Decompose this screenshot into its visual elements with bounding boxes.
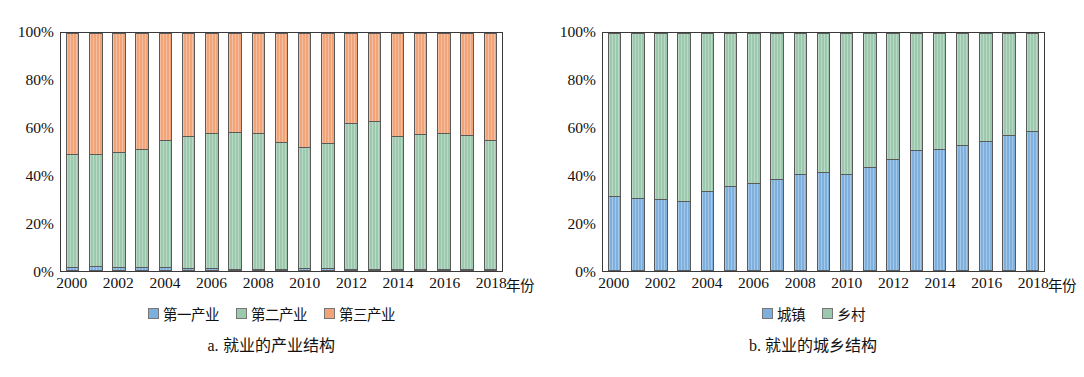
stacked-bar[interactable] <box>321 33 334 271</box>
stacked-bar[interactable] <box>460 33 473 271</box>
bar-segment-第三产业[interactable] <box>252 33 265 133</box>
bar-segment-第三产业[interactable] <box>228 33 241 132</box>
stacked-bar[interactable] <box>228 33 241 271</box>
bar-segment-第二产业[interactable] <box>112 152 125 267</box>
bar-segment-城镇[interactable] <box>956 145 969 271</box>
stacked-bar[interactable] <box>631 33 644 271</box>
bar-segment-乡村[interactable] <box>724 33 737 186</box>
bar-slot[interactable] <box>61 33 84 271</box>
stacked-bar[interactable] <box>484 33 497 271</box>
bar-segment-乡村[interactable] <box>608 33 621 196</box>
bar-segment-第二产业[interactable] <box>460 135 473 269</box>
bar-segment-乡村[interactable] <box>794 33 807 174</box>
bar-segment-第三产业[interactable] <box>321 33 334 143</box>
bar-slot[interactable] <box>1021 33 1044 271</box>
bar-slot[interactable] <box>765 33 788 271</box>
stacked-bar[interactable] <box>979 33 992 271</box>
legend-item-第二产业[interactable]: 第二产业 <box>236 303 307 324</box>
stacked-bar[interactable] <box>252 33 265 271</box>
stacked-bar[interactable] <box>1002 33 1015 271</box>
bar-segment-第三产业[interactable] <box>298 33 311 147</box>
bar-slot[interactable] <box>603 33 626 271</box>
stacked-bar[interactable] <box>66 33 79 271</box>
bar-segment-第三产业[interactable] <box>414 33 427 134</box>
bar-segment-第一产业[interactable] <box>321 268 334 271</box>
stacked-bar[interactable] <box>414 33 427 271</box>
stacked-bar[interactable] <box>159 33 172 271</box>
bar-segment-第二产业[interactable] <box>391 136 404 269</box>
bar-slot[interactable] <box>974 33 997 271</box>
bar-slot[interactable] <box>812 33 835 271</box>
bar-slot[interactable] <box>363 33 386 271</box>
bar-slot[interactable] <box>673 33 696 271</box>
bar-segment-第二产业[interactable] <box>275 142 288 269</box>
bar-slot[interactable] <box>928 33 951 271</box>
stacked-bar[interactable] <box>794 33 807 271</box>
bar-segment-第二产业[interactable] <box>205 133 218 268</box>
bar-segment-城镇[interactable] <box>979 141 992 271</box>
bar-slot[interactable] <box>270 33 293 271</box>
bar-segment-第二产业[interactable] <box>344 123 357 269</box>
stacked-bar[interactable] <box>182 33 195 271</box>
bar-slot[interactable] <box>409 33 432 271</box>
bar-segment-第三产业[interactable] <box>182 33 195 136</box>
bar-segment-乡村[interactable] <box>631 33 644 198</box>
bar-slot[interactable] <box>455 33 478 271</box>
bar-segment-第一产业[interactable] <box>159 267 172 271</box>
stacked-bar[interactable] <box>677 33 690 271</box>
stacked-bar[interactable] <box>298 33 311 271</box>
stacked-bar[interactable] <box>886 33 899 271</box>
stacked-bar[interactable] <box>956 33 969 271</box>
bar-segment-乡村[interactable] <box>1026 33 1039 131</box>
bar-slot[interactable] <box>951 33 974 271</box>
bar-slot[interactable] <box>386 33 409 271</box>
legend-item-城镇[interactable]: 城镇 <box>762 303 805 324</box>
bar-segment-乡村[interactable] <box>840 33 853 174</box>
bar-segment-第一产业[interactable] <box>135 267 148 271</box>
stacked-bar[interactable] <box>863 33 876 271</box>
bar-segment-城镇[interactable] <box>840 174 853 271</box>
bar-segment-第二产业[interactable] <box>89 154 102 266</box>
bar-segment-第一产业[interactable] <box>460 269 473 271</box>
bar-segment-第一产业[interactable] <box>182 268 195 271</box>
stacked-bar[interactable] <box>724 33 737 271</box>
stacked-bar[interactable] <box>840 33 853 271</box>
bar-slot[interactable] <box>626 33 649 271</box>
stacked-bar[interactable] <box>608 33 621 271</box>
stacked-bar[interactable] <box>205 33 218 271</box>
bar-slot[interactable] <box>339 33 362 271</box>
bar-slot[interactable] <box>696 33 719 271</box>
bar-segment-第一产业[interactable] <box>89 266 102 271</box>
bar-segment-城镇[interactable] <box>608 196 621 271</box>
bar-segment-乡村[interactable] <box>1002 33 1015 135</box>
bar-slot[interactable] <box>858 33 881 271</box>
stacked-bar[interactable] <box>112 33 125 271</box>
bar-segment-第三产业[interactable] <box>89 33 102 154</box>
stacked-bar[interactable] <box>368 33 381 271</box>
bar-segment-第一产业[interactable] <box>437 269 450 271</box>
bar-segment-第二产业[interactable] <box>368 121 381 269</box>
bar-segment-第二产业[interactable] <box>66 154 79 266</box>
bar-segment-第一产业[interactable] <box>275 269 288 271</box>
bar-segment-乡村[interactable] <box>770 33 783 179</box>
stacked-bar[interactable] <box>391 33 404 271</box>
bar-segment-城镇[interactable] <box>910 150 923 271</box>
bar-slot[interactable] <box>154 33 177 271</box>
bar-segment-第一产业[interactable] <box>368 269 381 271</box>
bar-segment-第三产业[interactable] <box>205 33 218 133</box>
bar-segment-第三产业[interactable] <box>368 33 381 121</box>
bar-segment-第二产业[interactable] <box>437 133 450 269</box>
stacked-bar[interactable] <box>344 33 357 271</box>
bar-segment-第二产业[interactable] <box>484 140 497 269</box>
bar-segment-第二产业[interactable] <box>321 143 334 268</box>
legend-item-第三产业[interactable]: 第三产业 <box>324 303 395 324</box>
stacked-bar[interactable] <box>910 33 923 271</box>
bar-segment-第三产业[interactable] <box>437 33 450 133</box>
bar-slot[interactable] <box>293 33 316 271</box>
bar-segment-乡村[interactable] <box>747 33 760 183</box>
bar-segment-城镇[interactable] <box>724 186 737 271</box>
bar-segment-第一产业[interactable] <box>205 268 218 271</box>
bar-segment-乡村[interactable] <box>979 33 992 141</box>
bar-segment-乡村[interactable] <box>654 33 667 199</box>
bar-segment-城镇[interactable] <box>863 167 876 271</box>
